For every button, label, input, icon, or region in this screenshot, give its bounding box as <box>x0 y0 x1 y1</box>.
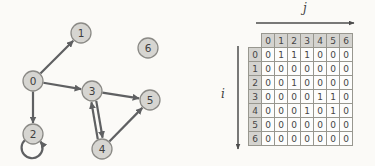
matrix-col-header: 4 <box>314 34 327 48</box>
matrix-cell: 0 <box>340 104 353 118</box>
matrix-row-header: 2 <box>249 76 262 90</box>
matrix-cell: 0 <box>340 76 353 90</box>
matrix-cell: 0 <box>275 132 288 146</box>
matrix-cell: 0 <box>327 76 340 90</box>
matrix-cell: 1 <box>288 76 301 90</box>
matrix-cell: 0 <box>314 76 327 90</box>
matrix-cell: 1 <box>327 90 340 104</box>
matrix-col-header: 5 <box>327 34 340 48</box>
matrix-cell: 0 <box>275 104 288 118</box>
graph-node-label: 6 <box>145 42 152 54</box>
matrix-row-axis-label: i <box>221 87 225 101</box>
graph-edge-3-5 <box>102 93 139 99</box>
graph-node-3: 3 <box>82 81 102 101</box>
matrix-cell: 0 <box>314 118 327 132</box>
graph-node-label: 2 <box>30 128 37 140</box>
matrix-cell: 0 <box>327 48 340 62</box>
matrix-cell: 0 <box>288 90 301 104</box>
matrix-cell: 0 <box>340 118 353 132</box>
graph-edge-0-3 <box>43 83 81 89</box>
matrix-cell: 0 <box>275 62 288 76</box>
matrix-row: 60000000 <box>249 132 353 146</box>
matrix-cell: 1 <box>301 104 314 118</box>
graph-node-6: 6 <box>138 38 158 58</box>
graph-node-label: 1 <box>78 27 85 39</box>
matrix-col-header: 6 <box>340 34 353 48</box>
graph-node-2: 2 <box>23 124 43 144</box>
matrix-col-header: 1 <box>275 34 288 48</box>
matrix-row: 10000000 <box>249 62 353 76</box>
matrix-cell: 0 <box>314 48 327 62</box>
matrix-cell: 0 <box>275 90 288 104</box>
matrix-row-header: 6 <box>249 132 262 146</box>
graph-node-5: 5 <box>140 90 160 110</box>
graph-node-label: 3 <box>89 85 96 97</box>
matrix-cell: 0 <box>262 62 275 76</box>
matrix-row: 00111000 <box>249 48 353 62</box>
matrix-cell: 0 <box>262 76 275 90</box>
matrix-cell: 0 <box>288 62 301 76</box>
matrix-cell: 0 <box>288 118 301 132</box>
matrix-row-header: 0 <box>249 48 262 62</box>
matrix-cell: 1 <box>288 48 301 62</box>
matrix-cell: 0 <box>340 62 353 76</box>
graph-node-4: 4 <box>92 139 112 159</box>
matrix-col-header: 0 <box>262 34 275 48</box>
matrix-row-header: 3 <box>249 90 262 104</box>
graph-edge-0-1 <box>40 41 73 74</box>
matrix-cell: 0 <box>288 104 301 118</box>
adjacency-matrix: 0123456001110001000000020010000300001104… <box>248 33 353 146</box>
graph-edge-4-5 <box>109 108 142 142</box>
matrix-cell: 0 <box>340 48 353 62</box>
matrix-cell: 1 <box>301 48 314 62</box>
matrix-cell: 0 <box>301 90 314 104</box>
matrix-cell: 1 <box>327 104 340 118</box>
matrix-cell: 0 <box>262 104 275 118</box>
matrix-cell: 0 <box>314 132 327 146</box>
matrix-cell: 0 <box>262 132 275 146</box>
matrix-row-header: 1 <box>249 62 262 76</box>
matrix-cell: 0 <box>327 62 340 76</box>
matrix-row: 20010000 <box>249 76 353 90</box>
matrix-cell: 1 <box>314 90 327 104</box>
matrix-cell: 0 <box>301 76 314 90</box>
matrix-row-header: 5 <box>249 118 262 132</box>
matrix-row-header: 4 <box>249 104 262 118</box>
matrix-cell: 0 <box>314 62 327 76</box>
matrix-cell: 1 <box>275 48 288 62</box>
matrix-col-header: 3 <box>301 34 314 48</box>
graph-node-label: 5 <box>147 94 154 106</box>
matrix-corner <box>249 34 262 48</box>
matrix-cell: 0 <box>262 118 275 132</box>
matrix-col-header: 2 <box>288 34 301 48</box>
matrix-cell: 0 <box>301 118 314 132</box>
graph-node-0: 0 <box>23 71 43 91</box>
figure: 0123456 j i 0123456001110001000000020010… <box>0 0 375 166</box>
graph-node-1: 1 <box>71 23 91 43</box>
matrix-cell: 0 <box>288 132 301 146</box>
matrix-col-axis-label: j <box>303 1 307 15</box>
matrix-cell: 0 <box>301 62 314 76</box>
graph-node-label: 0 <box>30 75 37 87</box>
matrix-cell: 0 <box>340 132 353 146</box>
matrix-cell: 0 <box>301 132 314 146</box>
matrix-cell: 0 <box>314 104 327 118</box>
matrix-cell: 0 <box>327 118 340 132</box>
matrix-row: 30000110 <box>249 90 353 104</box>
matrix-row: 50000000 <box>249 118 353 132</box>
graph-node-label: 4 <box>99 143 106 155</box>
matrix-cell: 0 <box>275 118 288 132</box>
matrix-cell: 0 <box>327 132 340 146</box>
matrix-cell: 0 <box>275 76 288 90</box>
matrix-row: 40001010 <box>249 104 353 118</box>
matrix-cell: 0 <box>340 90 353 104</box>
matrix-cell: 0 <box>262 48 275 62</box>
matrix-cell: 0 <box>262 90 275 104</box>
